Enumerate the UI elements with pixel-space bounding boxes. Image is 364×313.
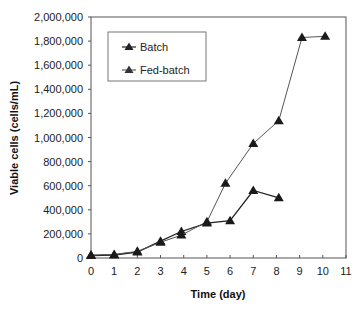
x-tick-label: 1 xyxy=(111,265,117,277)
legend-label-batch: Batch xyxy=(140,41,168,53)
x-tick-label: 0 xyxy=(88,265,94,277)
x-tick-label: 8 xyxy=(273,265,279,277)
y-axis-ticks: 0200,000400,000600,000800,0001,000,0001,… xyxy=(34,11,91,264)
x-tick-label: 6 xyxy=(227,265,233,277)
legend-label-fed-batch: Fed-batch xyxy=(140,64,190,76)
triangle-marker-icon xyxy=(320,31,330,39)
x-tick-label: 5 xyxy=(204,265,210,277)
x-tick-label: 9 xyxy=(297,265,303,277)
x-tick-label: 2 xyxy=(134,265,140,277)
legend: Batch Fed-batch xyxy=(108,32,206,81)
triangle-marker-icon xyxy=(86,250,96,258)
series-batch xyxy=(86,186,284,260)
y-tick-label: 1,800,000 xyxy=(34,35,83,47)
chart: 0200,000400,000600,000800,0001,000,0001,… xyxy=(0,0,364,313)
y-tick-label: 2,000,000 xyxy=(34,11,83,23)
y-tick-label: 800,000 xyxy=(43,156,83,168)
y-tick-label: 1,000,000 xyxy=(34,132,83,144)
y-tick-label: 400,000 xyxy=(43,204,83,216)
y-tick-label: 200,000 xyxy=(43,228,83,240)
y-tick-label: 1,200,000 xyxy=(34,107,83,119)
y-tick-label: 0 xyxy=(77,252,83,264)
x-tick-label: 3 xyxy=(157,265,163,277)
y-tick-label: 1,400,000 xyxy=(34,83,83,95)
x-axis-title: Time (day) xyxy=(191,288,246,300)
x-tick-label: 4 xyxy=(181,265,187,277)
x-tick-label: 11 xyxy=(340,265,351,277)
triangle-marker-icon xyxy=(297,32,307,41)
triangle-marker-icon xyxy=(220,178,230,187)
y-tick-label: 600,000 xyxy=(43,180,83,192)
triangle-marker-icon xyxy=(202,217,212,226)
triangle-marker-icon xyxy=(248,186,258,195)
y-axis-title: Viable cells (cells/mL) xyxy=(8,81,20,195)
x-tick-label: 7 xyxy=(250,265,256,277)
y-tick-label: 1,600,000 xyxy=(34,59,83,71)
x-tick-label: 10 xyxy=(317,265,329,277)
triangle-marker-icon xyxy=(274,116,284,125)
